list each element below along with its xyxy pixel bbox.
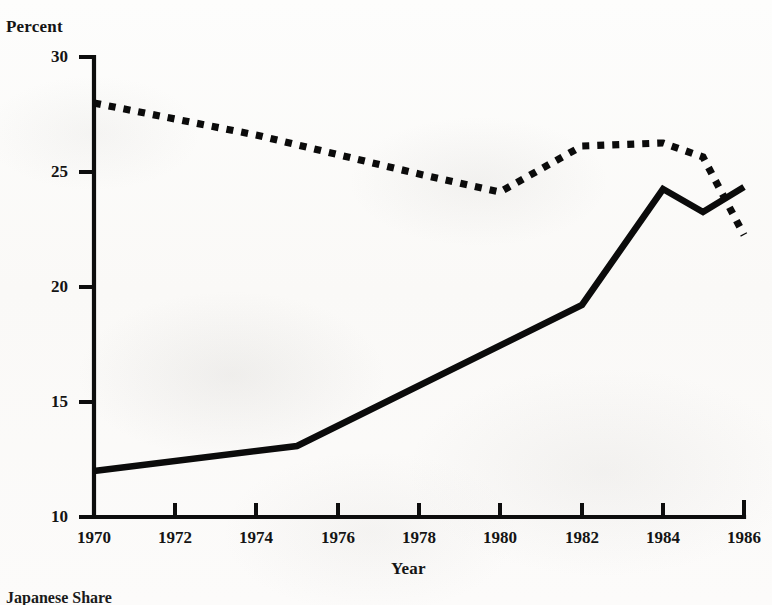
x-axis-ticks bbox=[94, 500, 744, 517]
line-chart: Percent Year 30 25 20 15 10 1970 1972 19… bbox=[0, 0, 772, 605]
series-line-japanese-share bbox=[94, 187, 744, 471]
figure-caption: Japanese Share bbox=[6, 588, 112, 605]
y-axis-ticks bbox=[79, 57, 94, 517]
plot-area bbox=[0, 0, 772, 605]
